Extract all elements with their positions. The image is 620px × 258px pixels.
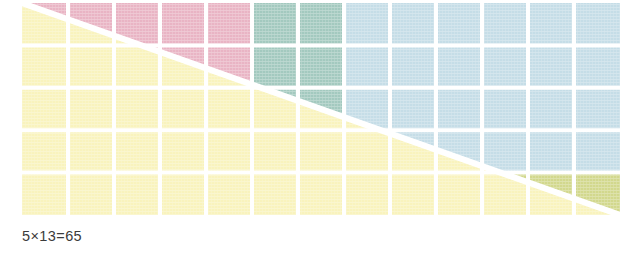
region-fill-layer — [22, 3, 620, 215]
grid-area — [22, 3, 620, 215]
multiplication-array-figure: 5×13=65 — [0, 0, 620, 258]
figure-caption: 5×13=65 — [22, 228, 82, 244]
